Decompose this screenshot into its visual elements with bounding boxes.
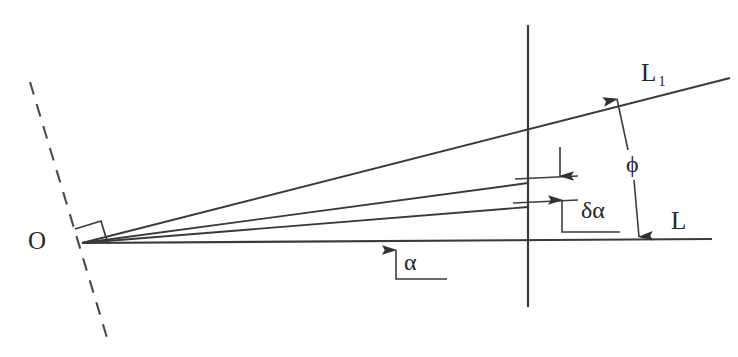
phi-arrow-down [634,180,639,237]
ray-L [82,239,712,243]
delta-alpha-leader [562,228,620,232]
phi-arrow-up [617,99,628,150]
label-angle-alpha: α [404,250,417,274]
label-L1-base: L [641,59,656,86]
label-L1-subscript: 1 [658,73,666,89]
delta-alpha-tick-lower [513,200,578,203]
label-angle-delta-alpha: δα [581,198,605,222]
label-origin: O [28,228,46,253]
label-ray-L: L [671,208,686,233]
dashed-normal-line [30,82,108,341]
label-angle-phi: ϕ [626,152,639,176]
delta-alpha-tick-upper [515,176,578,179]
label-ray-L1: L1 [641,60,664,85]
geometry-figure [0,0,738,357]
diagram-canvas: O L1 L ϕ δα α [0,0,738,357]
